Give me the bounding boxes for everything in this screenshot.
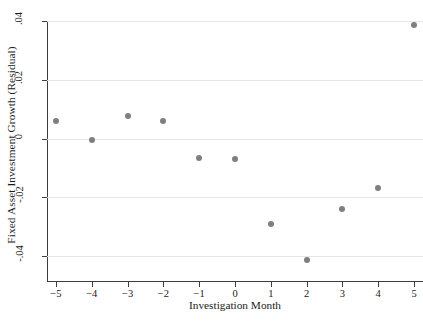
x-axis-tick-mark xyxy=(56,282,57,287)
x-axis-tick-label: 2 xyxy=(292,288,322,299)
data-point xyxy=(304,257,310,263)
gridline xyxy=(47,139,423,140)
x-axis-tick-label: −3 xyxy=(113,288,143,299)
x-axis-tick-label: −5 xyxy=(41,288,71,299)
y-axis-tick-label: -.02 xyxy=(0,189,39,200)
gridline xyxy=(47,197,423,198)
y-axis-tick-label: .04 xyxy=(0,13,39,24)
x-axis-tick-label: 5 xyxy=(399,288,423,299)
x-axis-tick-label: 1 xyxy=(256,288,286,299)
gridline xyxy=(47,21,423,22)
x-axis-tick-mark xyxy=(92,282,93,287)
y-axis-tick-label: 0 xyxy=(0,131,39,142)
x-axis-tick-label: −2 xyxy=(148,288,178,299)
x-axis-tick-mark xyxy=(378,282,379,287)
data-point xyxy=(53,118,59,124)
x-axis-tick-mark xyxy=(271,282,272,287)
x-axis-tick-label: −1 xyxy=(184,288,214,299)
x-axis-title: Investigation Month xyxy=(47,299,423,311)
x-axis-tick-label: −4 xyxy=(77,288,107,299)
x-axis-tick-mark xyxy=(163,282,164,287)
scatter-plot-figure: Fixed Asset Investment Growth (Residual)… xyxy=(0,0,423,328)
data-point xyxy=(125,113,131,119)
x-axis-tick-mark xyxy=(307,282,308,287)
plot-area xyxy=(47,21,423,281)
gridline xyxy=(47,80,423,81)
x-axis-tick-mark xyxy=(414,282,415,287)
y-axis-tick-label: .02 xyxy=(0,72,39,83)
data-point xyxy=(160,118,166,124)
x-axis-tick-label: 4 xyxy=(363,288,393,299)
x-axis-tick-label: 0 xyxy=(220,288,250,299)
x-axis-tick-mark xyxy=(235,282,236,287)
x-axis-tick-label: 3 xyxy=(327,288,357,299)
gridline xyxy=(47,256,423,257)
data-point xyxy=(268,221,274,227)
x-axis-tick-mark xyxy=(342,282,343,287)
data-point xyxy=(339,206,345,212)
data-point xyxy=(375,185,381,191)
data-point xyxy=(411,22,417,28)
data-point xyxy=(196,155,202,161)
x-axis-tick-mark xyxy=(128,282,129,287)
data-point xyxy=(89,137,95,143)
x-axis-tick-mark xyxy=(199,282,200,287)
y-axis-tick-label: -.04 xyxy=(0,248,39,259)
data-point xyxy=(232,156,238,162)
